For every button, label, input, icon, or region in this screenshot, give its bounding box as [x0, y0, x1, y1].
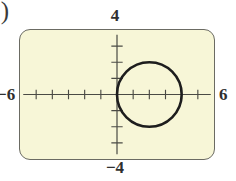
graph-canvas — [20, 30, 214, 159]
calculator-viewport — [19, 29, 215, 160]
figure-container: ) — [0, 0, 236, 181]
y-min-label: −4 — [0, 158, 233, 178]
y-max-label: 4 — [0, 6, 233, 26]
x-min-label: −6 — [0, 85, 15, 105]
x-max-label: 6 — [219, 85, 228, 105]
